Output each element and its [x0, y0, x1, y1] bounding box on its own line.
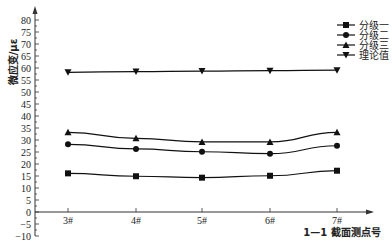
y-tick-label: 60	[21, 63, 31, 74]
x-axis-title: 1—1 截面测点号	[303, 226, 380, 238]
x-axis: 3#4#5#6#7#	[35, 208, 374, 226]
y-tick-label: 0	[26, 207, 31, 218]
x-tick-label: 7#	[332, 215, 342, 226]
y-tick-label: 35	[21, 123, 31, 134]
square-marker-icon	[133, 173, 139, 179]
series-square	[65, 168, 340, 181]
circle-marker-icon	[334, 143, 340, 149]
circle-marker-icon	[199, 149, 205, 155]
y-tick-label: −10	[15, 231, 31, 242]
y-tick-label: −5	[20, 219, 31, 230]
square-marker-icon	[65, 170, 71, 176]
x-tick-label: 6#	[265, 215, 275, 226]
y-tick-label: 5	[26, 195, 31, 206]
square-marker-icon	[343, 22, 349, 28]
y-tick-label: 25	[21, 147, 31, 158]
square-marker-icon	[267, 173, 273, 179]
y-tick-label: 45	[21, 99, 31, 110]
circle-marker-icon	[133, 146, 139, 152]
legend-label: 理论值	[359, 49, 389, 61]
square-marker-icon	[334, 168, 340, 174]
circle-marker-icon	[343, 32, 349, 38]
x-axis-arrow-icon	[366, 210, 374, 215]
x-tick-label: 3#	[63, 215, 73, 226]
y-tick-label: 55	[21, 75, 31, 86]
y-tick-label: 30	[21, 135, 31, 146]
series-triangle-down	[65, 67, 341, 76]
square-marker-icon	[199, 175, 205, 181]
y-tick-label: 80	[21, 15, 31, 26]
y-tick-label: 75	[21, 27, 31, 38]
legend-item: 理论值	[337, 49, 389, 61]
circle-marker-icon	[65, 141, 71, 147]
x-tick-label: 4#	[131, 215, 141, 226]
y-tick-label: 20	[21, 159, 31, 170]
y-tick-label: 65	[21, 51, 31, 62]
series-layer	[65, 67, 341, 181]
y-tick-label: 50	[21, 87, 31, 98]
legend: 分级一分级二分级三理论值	[337, 20, 389, 61]
y-tick-label: 40	[21, 111, 31, 122]
y-axis-title: 微应变/με	[7, 39, 19, 87]
circle-marker-icon	[267, 151, 273, 157]
y-tick-label: 15	[21, 171, 31, 182]
x-tick-label: 5#	[197, 215, 207, 226]
series-triangle-up	[65, 129, 341, 145]
y-axis-arrow-icon	[33, 6, 38, 14]
y-tick-label: 70	[21, 39, 31, 50]
line-chart: −10−505101520253035404550556065707580 3#…	[0, 0, 392, 250]
y-tick-label: 10	[21, 183, 31, 194]
